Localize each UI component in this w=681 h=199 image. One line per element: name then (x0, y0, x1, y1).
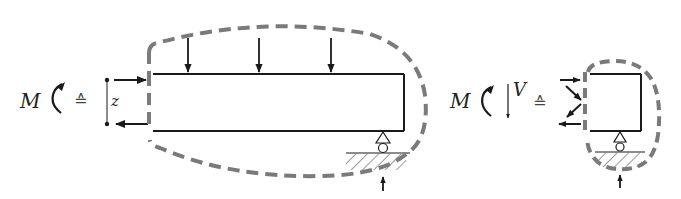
shear-label: V (513, 79, 528, 100)
equivalence-symbol-right: ≙ (533, 93, 546, 112)
moment-label-left: M (19, 89, 41, 113)
lever-arm-label: z (110, 92, 119, 110)
beam-segment-right (590, 74, 641, 131)
moment-arrow-icon (53, 82, 65, 113)
section-stress-arrows (559, 80, 581, 124)
beam-segment-left (153, 74, 404, 131)
moment-arrow-icon (482, 85, 494, 116)
free-body-outline-left (149, 26, 426, 176)
roller-support-left (346, 132, 410, 170)
moment-label-right: M (449, 89, 471, 113)
lever-arm: z (105, 78, 119, 126)
point-loads (188, 38, 331, 72)
left-equivalent-moment: M ≙ (19, 82, 87, 113)
roller-support-right (595, 132, 645, 167)
equivalence-symbol-left: ≙ (74, 91, 87, 110)
beam-free-body-diagram: M ≙ z (0, 0, 681, 199)
right-internal-forces: M V ≙ (449, 79, 546, 118)
